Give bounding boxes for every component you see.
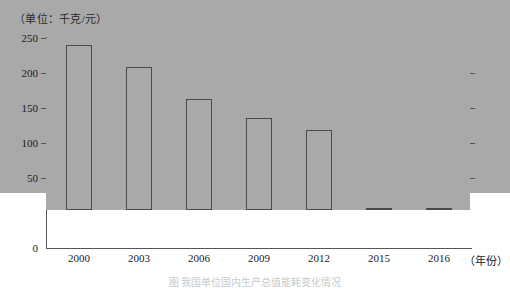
bar-2003[interactable] [126,67,152,210]
figure-caption: 图 我国单位国内生产总值能耗变化情况 [0,274,510,289]
bar-2009[interactable] [246,118,272,210]
y-tick-mark-right-50 [470,178,475,179]
y-tick-label-150: 150 [22,102,39,114]
y-tick-label-50: 50 [27,172,38,184]
x-label-2016: 2016 [428,252,450,264]
x-axis-line [46,248,472,249]
x-label-2012: 2012 [308,252,330,264]
bar-series [46,38,470,210]
y-tick-label-250: 250 [22,32,39,44]
x-label-2000: 2000 [68,252,90,264]
x-axis-unit-label: （年份） [464,252,508,268]
y-tick-label-100: 100 [22,137,39,149]
unit-label: （单位：千克/元） [14,10,108,26]
x-label-2006: 2006 [188,252,210,264]
y-tick-mark-right-100 [470,143,475,144]
x-label-2009: 2009 [248,252,270,264]
plot-area: 250 200 150 100 50 0 [46,38,470,248]
y-tick-label-0: 0 [33,242,39,254]
bar-2015[interactable] [366,208,392,210]
x-label-2003: 2003 [128,252,150,264]
bar-2012[interactable] [306,130,332,211]
y-tick-mark-right-150 [470,108,475,109]
x-label-2015: 2015 [368,252,390,264]
y-tick-mark-right-200 [470,73,475,74]
bar-2016[interactable] [426,208,452,210]
bar-chart-figure: （单位：千克/元） 250 200 150 100 [0,0,510,193]
bar-2000[interactable] [66,45,92,211]
bar-2006[interactable] [186,99,212,210]
y-tick-label-200: 200 [22,67,39,79]
x-axis-labels: 2000 2003 2006 2009 2012 2015 2016 （年份） [46,252,470,268]
